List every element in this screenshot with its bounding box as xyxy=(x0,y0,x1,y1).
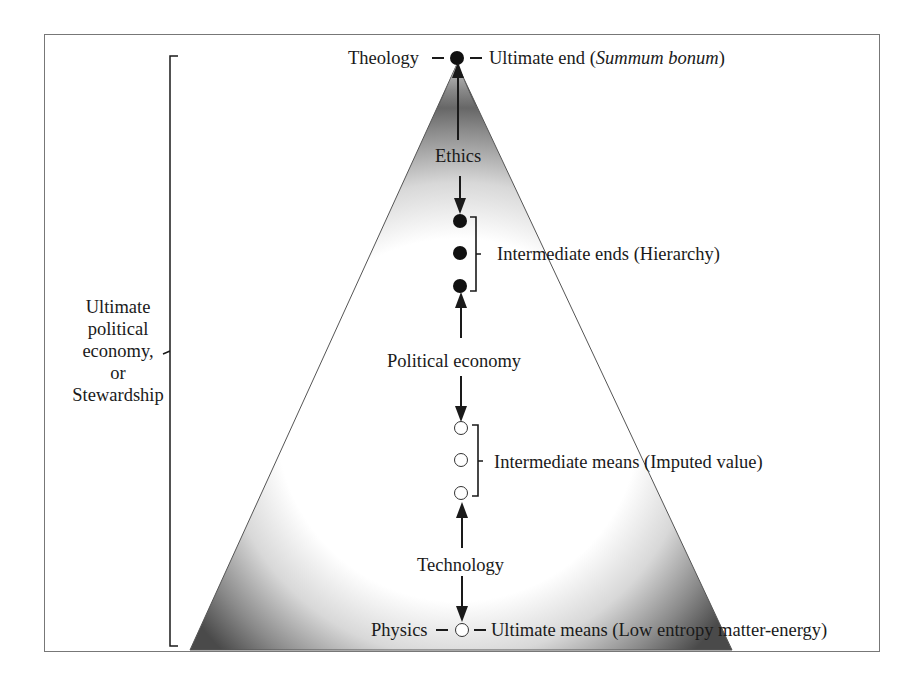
ultimate-end-text: Ultimate end ( xyxy=(489,48,596,68)
summum-bonum-text: Summum bonum xyxy=(596,48,719,68)
stewardship-label: Ultimate political economy, or Stewardsh… xyxy=(60,296,176,406)
side-label-line: or xyxy=(60,362,176,384)
apex-node xyxy=(450,51,464,65)
intermediate-ends-label: Intermediate ends (Hierarchy) xyxy=(497,245,720,264)
side-label-line: Stewardship xyxy=(60,384,176,406)
technology-label: Technology xyxy=(417,556,504,575)
side-label-line: economy, xyxy=(60,340,176,362)
ultimate-end-label: Ultimate end (Summum bonum) xyxy=(489,49,725,68)
theology-label: Theology xyxy=(348,49,419,68)
base-node xyxy=(456,624,469,637)
ultimate-end-close: ) xyxy=(719,48,725,68)
ethics-label: Ethics xyxy=(435,147,481,166)
political-economy-label: Political economy xyxy=(387,352,521,371)
ultimate-means-label: Ultimate means (Low entropy matter-energ… xyxy=(491,621,827,640)
side-label-line: political xyxy=(60,318,176,340)
intermediate-means-label: Intermediate means (Imputed value) xyxy=(494,453,763,472)
physics-label: Physics xyxy=(371,621,428,640)
side-label-line: Ultimate xyxy=(60,296,176,318)
